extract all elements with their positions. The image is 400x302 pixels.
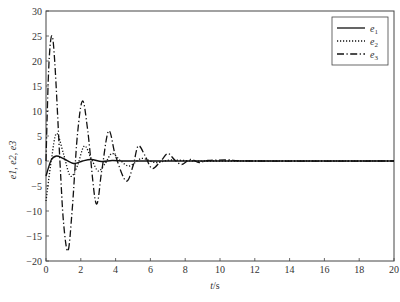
x-tick-label: 2 (78, 264, 83, 275)
data-series (46, 36, 394, 251)
y-tick-label: −10 (26, 206, 42, 217)
y-tick-label: 30 (32, 6, 42, 17)
y-tick-label: 25 (32, 31, 42, 42)
y-tick-label: 15 (32, 81, 42, 92)
series-e1 (46, 156, 394, 176)
y-tick-label: 10 (32, 106, 42, 117)
x-tick-label: 10 (215, 264, 225, 275)
x-tick-label: 12 (250, 264, 260, 275)
y-tick-label: −15 (26, 231, 42, 242)
series-e3 (46, 36, 394, 251)
legend: e1e2e3 (332, 17, 388, 65)
x-tick-label: 8 (183, 264, 188, 275)
x-tick-label: 18 (354, 264, 364, 275)
x-tick-label: 4 (113, 264, 118, 275)
y-tick-label: −20 (26, 256, 42, 267)
x-tick-label: 0 (44, 264, 49, 275)
x-tick-label: 14 (285, 264, 295, 275)
line-chart: 02468101214161820−20−15−10−5051015202530… (0, 0, 400, 302)
y-axis-label: e1, e2, e3 (7, 141, 18, 179)
x-tick-label: 6 (148, 264, 153, 275)
x-tick-label: 20 (389, 264, 399, 275)
y-tick-label: 0 (37, 156, 42, 167)
x-axis-label: t/s (210, 280, 220, 291)
series-e2 (46, 133, 394, 201)
y-tick-label: 5 (37, 131, 42, 142)
y-tick-label: 20 (32, 56, 42, 67)
x-tick-label: 16 (319, 264, 329, 275)
y-tick-label: −5 (31, 181, 42, 192)
